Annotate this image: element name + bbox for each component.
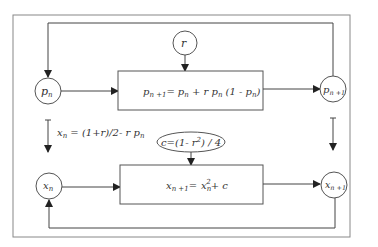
node-p-n: pn [35, 78, 61, 104]
node-x-n-plus-1: xn +1 [321, 172, 347, 198]
node-p-n-sub: n [48, 91, 53, 99]
node-x-n: xn [36, 173, 62, 199]
transform-arrow-left [45, 120, 51, 152]
node-p-n-base: p [41, 85, 48, 98]
transform-arrow-right [330, 118, 336, 150]
node-r: r [173, 31, 197, 55]
node-r-label: r [181, 37, 187, 50]
svg-text:c=(1- r2) / 4: c=(1- r2) / 4 [161, 136, 221, 148]
transform-rhs: = (1+r)/2- r p [67, 127, 140, 138]
node-p-n-plus-1: pn +1 [320, 76, 346, 102]
quad-lhs-sub: n +1 [172, 185, 189, 193]
node-x-n1-sub: n +1 [330, 184, 346, 192]
quad-eq-sign: = [189, 180, 197, 191]
transform-label: xn = (1+r)/2- r pn [57, 127, 145, 140]
eq-lhs-sub: n +1 [149, 91, 166, 99]
ellipse-prefix: c=(1- r [161, 137, 198, 148]
quadratic-map-box: xn +1=xn2+ c [120, 165, 263, 204]
quad-rest: + c [211, 180, 229, 191]
eq-paren-close: ) [256, 86, 261, 97]
eq-sign: = [166, 86, 174, 97]
eq-paren-open: (1 - [222, 86, 245, 97]
transform-rhs-sub: n [140, 132, 145, 140]
node-x-n-sub: n [49, 185, 54, 193]
node-p-n1-sub: n +1 [329, 89, 345, 97]
logistic-map-box: pn +1=pn + r pn (1 - pn) [118, 71, 263, 110]
ellipse-suffix: ) / 4 [200, 137, 221, 148]
eq-plus-r: + r [189, 86, 212, 97]
parameter-c-ellipse: c=(1- r2) / 4 [157, 132, 225, 152]
diagram-canvas: pn r pn +1=pn + r pn (1 - pn) pn +1 xn =… [0, 0, 378, 247]
